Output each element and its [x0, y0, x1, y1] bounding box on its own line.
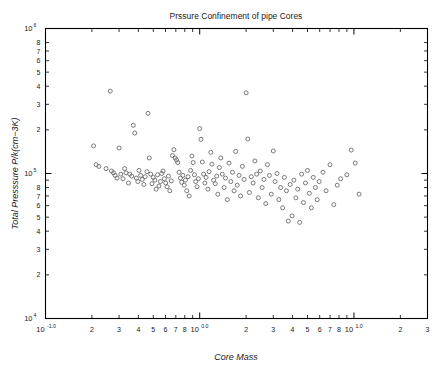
x-minor-label: 6	[318, 326, 322, 333]
x-minor-label: 4	[291, 326, 295, 333]
x-minor-label: 5	[306, 326, 310, 333]
y-minor-label: 2	[37, 126, 41, 133]
y-tick-label: 10	[24, 169, 32, 178]
scatter-plot: Prssure Confinement of pipe Cores 106105…	[0, 0, 446, 370]
y-minor-label: 8	[37, 39, 41, 46]
x-minor-label: 8	[183, 326, 187, 333]
chart-title: Prssure Confinement of pipe Cores	[170, 11, 303, 21]
x-minor-label: 3	[426, 326, 430, 333]
x-tick-exponent: 1.0	[355, 323, 362, 329]
x-tick-label: 10	[345, 325, 353, 334]
y-tick-exponent: 6	[34, 22, 37, 28]
x-minor-label: 3	[271, 326, 275, 333]
x-minor-label: 4	[136, 326, 140, 333]
y-minor-label: 7	[37, 193, 41, 200]
x-minor-label: 3	[117, 326, 121, 333]
y-minor-label: 5	[37, 69, 41, 76]
y-minor-label: 4	[37, 228, 41, 235]
x-tick-label: 10	[36, 325, 44, 334]
y-minor-label: 7	[37, 48, 41, 55]
x-minor-label: 6	[164, 326, 168, 333]
y-minor-label: 4	[37, 83, 41, 90]
y-axis-label: Total Presssure P/k(cm−3K)	[10, 118, 20, 230]
figure-background	[0, 0, 446, 370]
x-minor-label: 2	[398, 326, 402, 333]
y-minor-label: 6	[37, 202, 41, 209]
x-tick-exponent: 0.0	[201, 323, 208, 329]
x-minor-label: 8	[337, 326, 341, 333]
x-minor-label: 7	[174, 326, 178, 333]
y-tick-exponent: 4	[34, 312, 37, 318]
y-tick-label: 10	[24, 24, 32, 33]
x-minor-label: 2	[244, 326, 248, 333]
y-minor-label: 5	[37, 214, 41, 221]
x-minor-label: 2	[90, 326, 94, 333]
y-minor-label: 8	[37, 184, 41, 191]
y-minor-label: 3	[37, 246, 41, 253]
x-minor-label: 7	[328, 326, 332, 333]
x-minor-label: 5	[151, 326, 155, 333]
x-axis-label: Core Mass	[214, 352, 258, 362]
y-tick-label: 10	[24, 314, 32, 323]
x-tick-exponent: -1.0	[47, 323, 56, 329]
y-minor-label: 3	[37, 101, 41, 108]
y-minor-label: 6	[37, 57, 41, 64]
chart-figure: Prssure Confinement of pipe Cores 106105…	[0, 0, 446, 370]
x-tick-label: 10	[191, 325, 199, 334]
y-tick-exponent: 5	[34, 167, 37, 173]
y-minor-label: 2	[37, 271, 41, 278]
